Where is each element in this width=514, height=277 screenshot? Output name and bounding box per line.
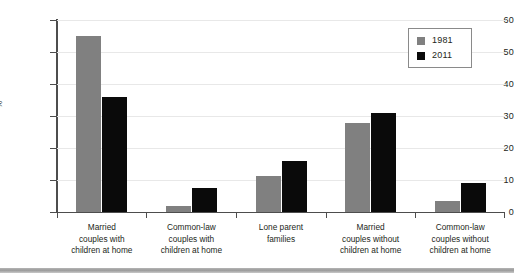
legend-item-2011: 2011 xyxy=(417,51,452,60)
chart-legend: 1981 2011 xyxy=(408,28,472,68)
x-tick-4 xyxy=(415,212,416,218)
x-tick-5 xyxy=(504,212,505,218)
category-label-line: children at home xyxy=(326,245,416,257)
bar-2011-cat4 xyxy=(461,183,486,212)
category-label-line: families xyxy=(236,234,326,246)
category-label-1: Common-lawcouples withchildren at home xyxy=(147,222,237,257)
bar-2011-cat0 xyxy=(102,97,127,212)
category-label-2: Lone parentfamilies xyxy=(236,222,326,245)
bottom-rule-divider xyxy=(0,268,514,273)
bar-1981-cat2 xyxy=(256,176,281,212)
category-label-line: children at home xyxy=(147,245,237,257)
x-tick-1 xyxy=(146,212,147,218)
x-tick-0 xyxy=(57,212,58,218)
bar-1981-cat1 xyxy=(166,206,191,212)
category-label-line: children at home xyxy=(57,245,147,257)
bar-1981-cat0 xyxy=(76,36,101,212)
category-label-4: Common-lawcouples withoutchildren at hom… xyxy=(415,222,505,257)
bar-2011-cat3 xyxy=(371,113,396,212)
category-label-3: Marriedcouples withoutchildren at home xyxy=(326,222,416,257)
bar-2011-cat1 xyxy=(192,188,217,212)
y-axis-label: % xyxy=(0,101,4,108)
legend-item-1981: 1981 xyxy=(417,36,453,45)
category-label-0: Marriedcouples withchildren at home xyxy=(57,222,147,257)
category-label-line: couples with xyxy=(147,234,237,246)
legend-label-1981: 1981 xyxy=(432,36,453,45)
category-label-line: children at home xyxy=(415,245,505,257)
bar-1981-cat3 xyxy=(345,123,370,212)
legend-swatch-icon-1981 xyxy=(417,37,425,45)
x-tick-3 xyxy=(326,212,327,218)
gridline-40 xyxy=(57,84,505,85)
bar-chart-figure: % 60 50 40 30 20 10 0 Mar xyxy=(0,0,514,277)
category-label-line: couples without xyxy=(326,234,416,246)
category-label-line: Married xyxy=(57,222,147,234)
category-label-line: Common-law xyxy=(415,222,505,234)
category-label-line: Common-law xyxy=(147,222,237,234)
legend-swatch-icon-2011 xyxy=(417,52,425,60)
category-label-line: couples without xyxy=(415,234,505,246)
legend-label-2011: 2011 xyxy=(432,51,452,60)
gridline-60 xyxy=(57,20,505,21)
category-label-line: Married xyxy=(326,222,416,234)
category-label-line: couples with xyxy=(57,234,147,246)
bar-1981-cat4 xyxy=(435,201,460,212)
category-label-line: Lone parent xyxy=(236,222,326,234)
bar-2011-cat2 xyxy=(282,161,307,212)
x-tick-2 xyxy=(236,212,237,218)
